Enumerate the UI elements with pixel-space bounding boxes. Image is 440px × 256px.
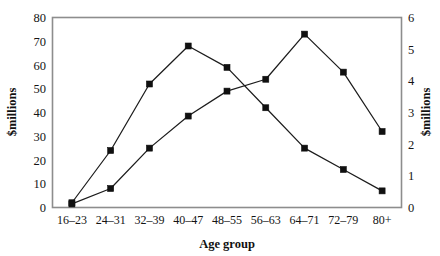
line-chart: 01020304050607080 0123456 16–2324–3132–3… xyxy=(0,0,440,256)
x-category-label: 40–47 xyxy=(173,213,203,227)
right-tick-label: 5 xyxy=(408,43,414,57)
data-point-marker xyxy=(263,76,269,82)
data-point-marker xyxy=(146,81,152,87)
x-category-label: 32–39 xyxy=(134,213,164,227)
data-point-marker xyxy=(340,167,346,173)
left-axis-ticks: 01020304050607080 xyxy=(34,11,47,215)
right-tick-label: 4 xyxy=(408,74,415,88)
data-point-marker xyxy=(340,69,346,75)
data-point-marker xyxy=(108,186,114,192)
x-axis-title: Age group xyxy=(199,237,255,251)
data-point-marker xyxy=(302,31,308,37)
data-point-marker xyxy=(69,201,75,207)
x-category-label: 56–63 xyxy=(251,213,281,227)
data-point-marker xyxy=(185,43,191,49)
left-tick-label: 10 xyxy=(34,177,47,191)
x-category-label: 16–23 xyxy=(57,213,87,227)
right-tick-label: 6 xyxy=(408,11,414,25)
data-point-marker xyxy=(379,129,385,135)
left-tick-label: 30 xyxy=(34,130,47,144)
left-tick-label: 50 xyxy=(34,82,47,96)
left-tick-label: 60 xyxy=(34,59,47,73)
right-axis-title: $millions xyxy=(419,88,433,137)
data-point-marker xyxy=(302,145,308,151)
left-axis-title: $millions xyxy=(5,88,19,137)
right-tick-label: 2 xyxy=(408,138,414,152)
x-category-label: 48–55 xyxy=(212,213,242,227)
data-point-marker xyxy=(224,64,230,70)
x-category-label: 64–71 xyxy=(290,213,320,227)
data-point-marker xyxy=(146,145,152,151)
left-tick-label: 0 xyxy=(40,201,46,215)
left-tick-label: 70 xyxy=(34,35,47,49)
left-tick-label: 40 xyxy=(34,106,47,120)
x-category-label: 72–79 xyxy=(328,213,358,227)
right-tick-label: 0 xyxy=(408,201,414,215)
data-point-marker xyxy=(224,88,230,94)
left-tick-label: 20 xyxy=(34,154,47,168)
right-tick-label: 3 xyxy=(408,106,414,120)
data-point-marker xyxy=(185,113,191,119)
x-axis-category-labels: 16–2324–3132–3940–4748–5556–6364–7172–79… xyxy=(57,213,392,227)
x-category-label: 80+ xyxy=(373,213,392,227)
chart-container: 01020304050607080 0123456 16–2324–3132–3… xyxy=(0,0,440,256)
data-point-marker xyxy=(263,105,269,111)
data-point-marker xyxy=(108,148,114,154)
data-point-marker xyxy=(379,188,385,194)
right-tick-label: 1 xyxy=(408,169,414,183)
x-category-label: 24–31 xyxy=(96,213,126,227)
left-tick-label: 80 xyxy=(34,11,47,25)
